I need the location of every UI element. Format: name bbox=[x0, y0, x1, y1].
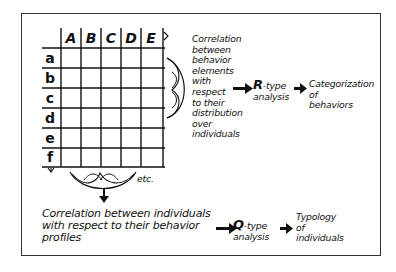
column-header-c: C bbox=[101, 30, 121, 46]
q-result: Typology of individuals bbox=[296, 212, 344, 244]
row-header-f: f bbox=[42, 149, 58, 165]
row-header-d: d bbox=[42, 110, 58, 126]
row-header-c: c bbox=[42, 90, 58, 106]
column-header-e: E bbox=[141, 30, 161, 46]
q-result-line: Typology bbox=[296, 212, 344, 223]
q-description: Correlation between individuals with res… bbox=[42, 208, 211, 244]
r-result: Categorization of behaviors bbox=[309, 79, 374, 111]
q-analysis-word: analysis bbox=[233, 232, 269, 243]
r-analysis-word: analysis bbox=[253, 92, 289, 103]
q-suffix: -type bbox=[244, 220, 267, 231]
q-type-analysis-label: Q-type analysis bbox=[233, 220, 269, 242]
r-desc-line: respect bbox=[192, 87, 243, 98]
q-desc-line: profiles bbox=[42, 232, 211, 244]
r-result-line: behaviors bbox=[309, 100, 374, 111]
q-result-line: individuals bbox=[296, 233, 344, 244]
row-header-b: b bbox=[42, 70, 58, 86]
row-header-a: a bbox=[42, 50, 58, 66]
etc-label: etc. bbox=[137, 174, 154, 185]
r-desc-line: Correlation bbox=[192, 34, 243, 45]
column-header-d: D bbox=[121, 30, 141, 46]
r-desc-line: individuals bbox=[192, 129, 243, 140]
r-letter: R bbox=[253, 77, 263, 92]
column-header-a: A bbox=[61, 30, 81, 46]
r-type-analysis-label: R-type analysis bbox=[253, 80, 289, 102]
column-header-b: B bbox=[81, 30, 101, 46]
r-description: Correlation between behavior elements wi… bbox=[192, 34, 243, 140]
row-header-e: e bbox=[42, 130, 58, 146]
r-result-line: Categorization bbox=[309, 79, 374, 90]
q-letter: Q bbox=[233, 217, 244, 232]
r-suffix: -type bbox=[263, 80, 286, 91]
